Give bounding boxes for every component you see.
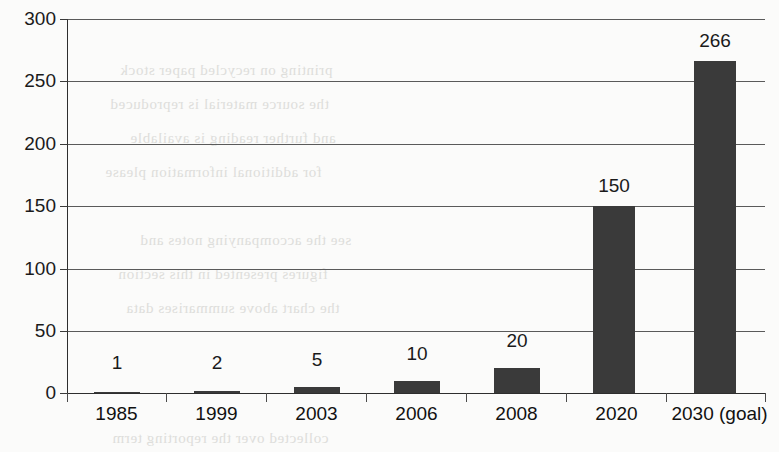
x-axis-label-2008: 2008 [470,404,563,423]
x-tick-boundary [466,393,467,402]
x-tick-boundary [765,393,766,402]
bar-1985[interactable] [94,392,140,393]
x-tick-boundary [366,393,367,402]
x-tick-boundary [266,393,267,402]
x-tick-boundary [566,393,567,402]
bar-2020[interactable] [593,206,635,393]
y-tick-250 [60,81,68,82]
y-tick-150 [60,206,68,207]
bar-value-2008: 20 [482,331,552,350]
bar-value-2003: 5 [282,350,352,369]
y-tick-200 [60,144,68,145]
gridline-50 [67,331,765,332]
x-axis-label-2030: 2030 (goal) [660,404,779,423]
x-axis-label-1985: 1985 [70,404,163,423]
y-axis-label-0: 0 [4,383,56,402]
y-axis-label-300: 300 [4,9,56,28]
x-axis-label-2006: 2006 [370,404,463,423]
bar-2003[interactable] [294,387,340,393]
bar-2006[interactable] [394,381,440,394]
bar-2030[interactable] [694,61,736,393]
gridline-200 [67,144,765,145]
y-axis-label-100: 100 [4,259,56,278]
bar-2008[interactable] [494,368,540,393]
y-axis-label-50: 50 [4,321,56,340]
x-axis-label-2020: 2020 [570,404,663,423]
bar-value-2006: 10 [382,344,452,363]
y-tick-300 [60,19,68,20]
x-axis-line [67,393,765,394]
x-tick-boundary [67,393,68,402]
gridline-150 [67,206,765,207]
bar-value-1999: 2 [182,353,252,372]
x-axis-label-2003: 2003 [270,404,363,423]
bar-chart: 300 250 200 150 100 50 0 1 2 5 10 20 150… [0,0,779,452]
x-axis-label-1999: 1999 [170,404,263,423]
bar-value-1985: 1 [82,353,152,372]
bar-value-2020: 150 [579,176,649,195]
x-tick-boundary [166,393,167,402]
y-axis-label-150: 150 [4,196,56,215]
gridline-250 [67,81,765,82]
bar-value-2030: 266 [680,31,750,50]
gridline-300 [67,19,765,20]
bar-1999[interactable] [194,391,240,394]
x-tick-boundary [666,393,667,402]
chart-page: printing on recycled paper stock the sou… [0,0,779,452]
y-axis-label-250: 250 [4,71,56,90]
y-axis-label-200: 200 [4,134,56,153]
y-tick-50 [60,331,68,332]
gridline-100 [67,269,765,270]
y-tick-100 [60,269,68,270]
